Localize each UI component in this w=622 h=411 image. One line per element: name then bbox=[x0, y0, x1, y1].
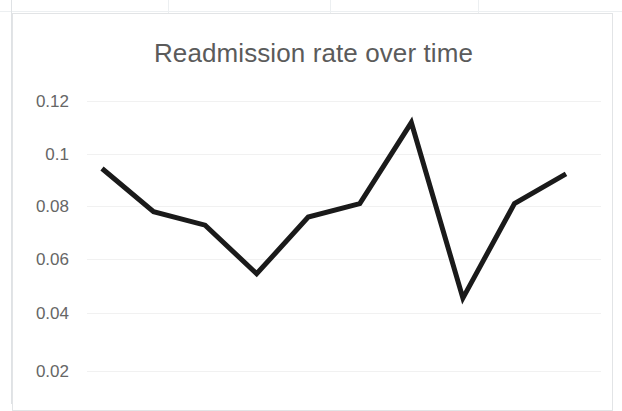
readmission-rate-line bbox=[102, 123, 566, 299]
chart-object[interactable]: Readmission rate over time 0.12 0.1 0.08… bbox=[12, 13, 613, 411]
plot-area: 0.12 0.1 0.08 0.06 0.04 0.02 bbox=[13, 14, 613, 411]
data-series-line bbox=[13, 14, 613, 411]
sheet-row-divider bbox=[0, 11, 622, 12]
